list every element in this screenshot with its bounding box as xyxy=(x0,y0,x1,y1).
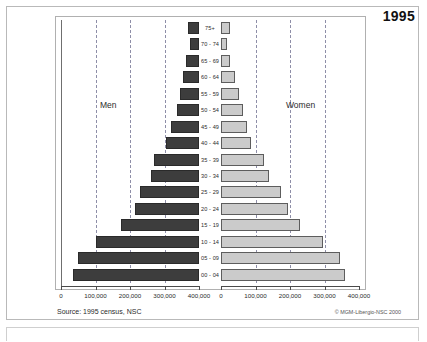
bar-row-men xyxy=(61,184,199,200)
bar-row-women xyxy=(221,184,359,200)
bar-men-10-14 xyxy=(96,236,200,248)
bar-row-men xyxy=(61,86,199,102)
population-pyramid-chart: 75+70 - 7465 - 6960 - 6455 - 5950 - 5445… xyxy=(0,0,427,342)
bar-women-15-19 xyxy=(221,219,300,231)
bar-row-men xyxy=(61,267,199,283)
age-band-label: 35 - 39 xyxy=(199,152,221,168)
men-panel xyxy=(61,20,199,283)
bar-row-women xyxy=(221,234,359,250)
tick-women-200000 xyxy=(290,286,291,290)
bar-men-35-39 xyxy=(154,154,199,166)
bar-row-women xyxy=(221,250,359,266)
bar-row-men xyxy=(61,135,199,151)
age-band-label: 15 - 19 xyxy=(199,217,221,233)
bar-women-25-29 xyxy=(221,186,281,198)
bar-row-men xyxy=(61,201,199,217)
age-band-label: 55 - 59 xyxy=(199,86,221,102)
bar-women-30-34 xyxy=(221,170,269,182)
age-label-column: 75+70 - 7465 - 6960 - 6455 - 5950 - 5445… xyxy=(199,20,221,283)
age-band-label: 20 - 24 xyxy=(199,201,221,217)
bar-men-15-19 xyxy=(121,219,199,231)
age-band-label: 70 - 74 xyxy=(199,36,221,52)
bar-row-men xyxy=(61,20,199,36)
bar-row-women xyxy=(221,20,359,36)
bar-row-men xyxy=(61,36,199,52)
tick-women-0 xyxy=(221,286,222,290)
bar-row-men xyxy=(61,102,199,118)
bar-row-women xyxy=(221,217,359,233)
age-band-label: 25 - 29 xyxy=(199,184,221,200)
bar-women-20-24 xyxy=(221,203,288,215)
bar-women-00-04 xyxy=(221,269,345,281)
bar-row-women xyxy=(221,119,359,135)
age-band-label: 30 - 34 xyxy=(199,168,221,184)
bar-row-women xyxy=(221,201,359,217)
bar-row-men xyxy=(61,69,199,85)
bar-row-men xyxy=(61,250,199,266)
tick-women-400000 xyxy=(359,286,360,290)
bar-men-70-74 xyxy=(190,38,199,50)
bar-women-45-49 xyxy=(221,121,247,133)
series-label-women: Women xyxy=(286,100,315,110)
tick-label-men-0: 400,000 xyxy=(188,292,210,299)
tick-women-100000 xyxy=(256,286,257,290)
bar-men-25-29 xyxy=(140,186,199,198)
bar-row-men xyxy=(61,152,199,168)
women-panel xyxy=(221,20,359,283)
tick-label-women-0: 0 xyxy=(219,292,222,299)
tick-men-200000 xyxy=(130,286,131,290)
tick-label-men-400000: 0 xyxy=(59,292,62,299)
age-band-label: 40 - 44 xyxy=(199,135,221,151)
tick-label-women-300000: 300,000 xyxy=(313,292,335,299)
bar-men-30-34 xyxy=(151,170,199,182)
age-band-label: 60 - 64 xyxy=(199,69,221,85)
tick-men-300000 xyxy=(96,286,97,290)
age-band-label: 75+ xyxy=(199,20,221,36)
bar-men-45-49 xyxy=(171,121,199,133)
age-band-label: 50 - 54 xyxy=(199,102,221,118)
tick-label-women-400000: 400,000 xyxy=(348,292,370,299)
bar-row-women xyxy=(221,36,359,52)
age-band-label: 05 - 09 xyxy=(199,250,221,266)
bar-women-05-09 xyxy=(221,252,340,264)
bar-women-10-14 xyxy=(221,236,323,248)
bar-men-60-64 xyxy=(183,71,199,83)
tick-men-100000 xyxy=(165,286,166,290)
bar-women-60-64 xyxy=(221,71,235,83)
bar-men-75 xyxy=(188,22,199,34)
bar-men-40-44 xyxy=(166,137,199,149)
bar-men-50-54 xyxy=(177,104,199,116)
tick-label-men-200000: 200,000 xyxy=(119,292,141,299)
bar-men-65-69 xyxy=(186,55,199,67)
bar-row-women xyxy=(221,53,359,69)
bar-row-men xyxy=(61,217,199,233)
series-label-men: Men xyxy=(100,100,117,110)
tick-label-men-300000: 100,000 xyxy=(84,292,106,299)
bar-men-05-09 xyxy=(78,252,199,264)
age-band-label: 45 - 49 xyxy=(199,119,221,135)
bar-women-50-54 xyxy=(221,104,243,116)
copyright-note: © MGM-Libergio-NSC 2000 xyxy=(335,309,401,315)
bar-women-75 xyxy=(221,22,230,34)
tick-label-women-100000: 100,000 xyxy=(244,292,266,299)
source-note: Source: 1995 census, NSC xyxy=(57,308,141,315)
bar-women-70-74 xyxy=(221,38,227,50)
bar-row-women xyxy=(221,69,359,85)
bar-row-men xyxy=(61,168,199,184)
bar-women-65-69 xyxy=(221,55,230,67)
age-band-label: 65 - 69 xyxy=(199,53,221,69)
bar-women-35-39 xyxy=(221,154,264,166)
tick-label-women-200000: 200,000 xyxy=(279,292,301,299)
bar-men-55-59 xyxy=(180,88,199,100)
bar-men-20-24 xyxy=(135,203,199,215)
tick-label-men-100000: 300,000 xyxy=(153,292,175,299)
tick-women-300000 xyxy=(325,286,326,290)
age-band-label: 00 - 04 xyxy=(199,267,221,283)
bar-row-women xyxy=(221,168,359,184)
bar-row-women xyxy=(221,267,359,283)
tick-men-400000 xyxy=(61,286,62,290)
tick-men-0 xyxy=(199,286,200,290)
bar-women-40-44 xyxy=(221,137,251,149)
bar-women-55-59 xyxy=(221,88,239,100)
bar-men-00-04 xyxy=(73,269,199,281)
